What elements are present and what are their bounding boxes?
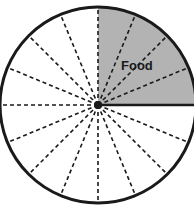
- spoke-line: [29, 105, 98, 174]
- spoke-line: [60, 14, 98, 105]
- spoke-line: [60, 105, 98, 196]
- spoke-line: [98, 105, 189, 143]
- spoke-line: [98, 105, 167, 174]
- spoke-line: [7, 105, 98, 143]
- food-sector: [98, 7, 194, 105]
- center-dot: [94, 101, 102, 109]
- pie-chart: Food: [0, 0, 194, 205]
- sector-food: [98, 7, 194, 105]
- spoke-line: [98, 105, 136, 196]
- spoke-line: [29, 36, 98, 105]
- spoke-line: [7, 67, 98, 105]
- food-label: Food: [121, 58, 153, 73]
